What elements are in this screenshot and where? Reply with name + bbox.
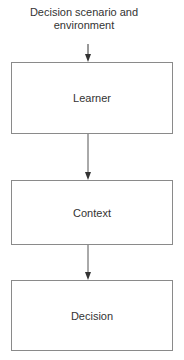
arrow-input-to-learner bbox=[85, 44, 91, 62]
input-label-line2: environment bbox=[0, 19, 168, 32]
node-context-label: Context bbox=[73, 207, 111, 219]
arrow-context-to-decision bbox=[85, 245, 91, 280]
node-decision: Decision bbox=[11, 280, 173, 351]
input-label-line1: Decision scenario and bbox=[0, 6, 168, 19]
node-decision-label: Decision bbox=[71, 310, 113, 322]
node-learner-label: Learner bbox=[73, 92, 111, 104]
input-label: Decision scenario and environment bbox=[0, 6, 168, 32]
node-context: Context bbox=[11, 180, 173, 245]
node-learner: Learner bbox=[11, 62, 173, 134]
arrow-learner-to-context bbox=[85, 134, 91, 180]
